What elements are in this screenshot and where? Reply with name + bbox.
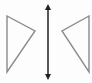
right-triangle [62,16,89,72]
left-triangle [7,16,35,72]
reflection-diagram [0,0,92,83]
diagram-canvas: Reflection symmetry across a vertical li… [0,0,92,83]
